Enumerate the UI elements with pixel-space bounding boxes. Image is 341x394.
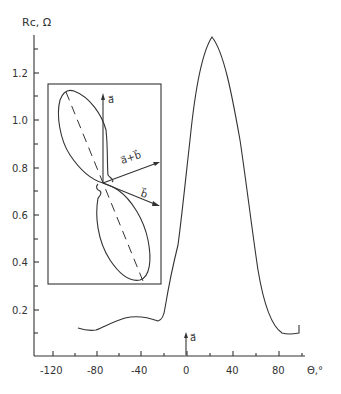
svg-text:0.4: 0.4 [12,257,28,268]
svg-text:-120: -120 [40,365,63,376]
x-axis-label: Θ,° [307,365,323,376]
svg-text:0.8: 0.8 [12,163,28,174]
data-curve [78,37,299,334]
svg-text:-80: -80 [87,365,103,376]
svg-text:1.2: 1.2 [12,68,28,79]
inset-vector-b-label: b⃗ [138,186,149,200]
svg-text:-40: -40 [131,365,147,376]
svg-text:40: 40 [226,365,239,376]
svg-text:0: 0 [183,365,189,376]
inset-vector-ab-label: a⃗+b⃗ [119,148,142,166]
y-tick-labels: 1.2 1.0 0.8 0.6 0.4 0.2 [12,68,28,316]
chart-canvas: Rc, Ω 1.2 1.0 0.8 0.6 0.4 0.2 [0,0,341,394]
x-ticks [53,351,302,356]
svg-text:0.6: 0.6 [12,210,28,221]
axis-vector-a-label: a⃗ [190,332,196,343]
svg-text:80: 80 [272,365,285,376]
y-ticks [34,49,39,333]
x-tick-labels: -120 -80 -40 0 40 80 [40,365,285,376]
inset-vector-a-label: a⃗ [108,94,114,105]
y-axis-label: Rc, Ω [22,16,51,29]
svg-text:0.2: 0.2 [12,305,28,316]
svg-text:1.0: 1.0 [12,115,28,126]
